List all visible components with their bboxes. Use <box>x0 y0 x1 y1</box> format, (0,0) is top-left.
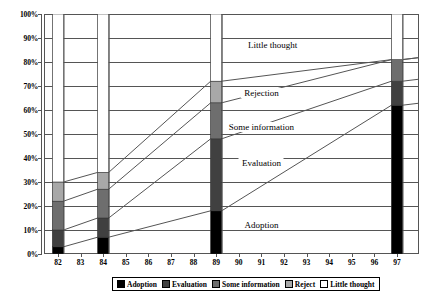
x-axis-tick <box>171 254 172 257</box>
x-axis-tick-label: 94 <box>325 258 333 267</box>
x-axis-tick-label: 82 <box>54 258 62 267</box>
legend-item[interactable]: Reject <box>285 280 315 289</box>
band-label: Rejection <box>241 88 282 98</box>
bar-segment <box>211 81 222 103</box>
bar-segment <box>392 81 403 105</box>
bar-segment <box>211 211 222 254</box>
band-label: Little thought <box>245 40 300 50</box>
x-axis-tick <box>307 254 308 257</box>
x-axis-tick <box>148 254 149 257</box>
bar-segment <box>211 14 222 81</box>
y-axis-tick-label: 0% <box>27 250 38 259</box>
y-axis-tick-label: 70% <box>24 82 38 91</box>
legend-swatch-icon <box>320 280 328 288</box>
y-axis-tick-label: 40% <box>24 154 38 163</box>
bar-segment <box>98 189 109 218</box>
x-axis-tick <box>261 254 262 257</box>
x-axis-tick <box>103 254 104 257</box>
legend-swatch-icon <box>162 280 170 288</box>
x-axis-tick <box>126 254 127 257</box>
x-axis-tick-label: 95 <box>348 258 356 267</box>
y-axis: 0%10%20%30%40%50%60%70%80%90%100% <box>0 0 42 304</box>
y-axis-tick-label: 80% <box>24 58 38 67</box>
x-axis-tick-label: 90 <box>235 258 243 267</box>
x-axis-tick-label: 88 <box>190 258 198 267</box>
bar-segment <box>98 218 109 237</box>
x-axis-tick <box>194 254 195 257</box>
x-axis-tick <box>397 254 398 257</box>
x-axis-tick <box>81 254 82 257</box>
legend-label: Some information <box>222 280 280 289</box>
legend-item[interactable]: Some information <box>212 280 280 289</box>
y-axis-tick-label: 100% <box>20 10 38 19</box>
chart-svg <box>44 14 419 254</box>
x-axis-tick-label: 86 <box>145 258 153 267</box>
y-axis-tick-label: 10% <box>24 226 38 235</box>
bar-segment <box>53 14 64 182</box>
y-axis-tick <box>38 254 42 255</box>
legend-item[interactable]: Adoption <box>117 280 157 289</box>
y-axis-tick-label: 60% <box>24 106 38 115</box>
bar-segment <box>98 237 109 254</box>
chart-root: 0%10%20%30%40%50%60%70%80%90%100% 828384… <box>0 0 439 304</box>
bar-segment <box>53 247 64 254</box>
y-axis-tick-label: 20% <box>24 202 38 211</box>
bar-segment <box>211 139 222 211</box>
plot-area <box>44 14 419 254</box>
bar-segment <box>392 105 403 254</box>
chart-legend: AdoptionEvaluationSome informationReject… <box>112 277 380 291</box>
x-axis-tick-label: 83 <box>77 258 85 267</box>
legend-swatch-icon <box>212 280 220 288</box>
legend-label: Little thought <box>330 280 374 289</box>
bar-segment <box>53 182 64 201</box>
legend-label: Evaluation <box>172 280 207 289</box>
bar-segment <box>53 230 64 247</box>
legend-swatch-icon <box>285 280 293 288</box>
bar-segment <box>98 172 109 189</box>
bar-segment <box>392 14 403 60</box>
bar-segment <box>392 60 403 82</box>
legend-swatch-icon <box>117 280 125 288</box>
x-axis-tick-label: 92 <box>280 258 288 267</box>
y-axis-tick-label: 30% <box>24 178 38 187</box>
x-axis-tick <box>239 254 240 257</box>
legend-label: Adoption <box>127 280 157 289</box>
bar-segment <box>53 201 64 230</box>
bar-segment <box>98 14 109 172</box>
x-axis-tick <box>216 254 217 257</box>
x-axis-tick-label: 97 <box>393 258 401 267</box>
legend-item[interactable]: Little thought <box>320 280 374 289</box>
y-axis-line <box>41 14 42 254</box>
y-axis-tick-label: 50% <box>24 130 38 139</box>
x-axis-tick-label: 84 <box>99 258 107 267</box>
x-axis-tick-label: 89 <box>212 258 220 267</box>
x-axis-tick <box>329 254 330 257</box>
x-axis-tick <box>284 254 285 257</box>
x-axis-tick-label: 87 <box>167 258 175 267</box>
x-axis-tick-label: 96 <box>371 258 379 267</box>
band-label: Adoption <box>241 220 281 230</box>
x-axis-tick-label: 91 <box>258 258 266 267</box>
legend-item[interactable]: Evaluation <box>162 280 207 289</box>
x-axis-tick <box>58 254 59 257</box>
y-axis-tick-label: 90% <box>24 34 38 43</box>
x-axis-tick-label: 85 <box>122 258 130 267</box>
x-axis-tick <box>374 254 375 257</box>
legend-label: Reject <box>295 280 315 289</box>
x-axis-tick <box>352 254 353 257</box>
band-label: Evaluation <box>239 158 284 168</box>
bar-segment <box>211 103 222 139</box>
band-label: Some information <box>226 122 297 132</box>
x-axis-tick-label: 93 <box>303 258 311 267</box>
